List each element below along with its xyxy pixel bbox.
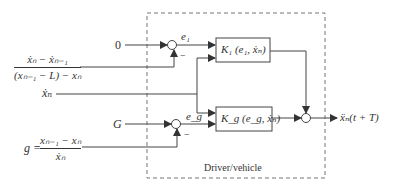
sum-junction-2 xyxy=(172,120,181,129)
fraction2-feedback-line xyxy=(82,129,177,147)
fraction1-numerator: ẋₙ − ẋₙ₋₁ xyxy=(27,53,68,66)
sum-junction-1 xyxy=(168,41,177,50)
fraction2-label: xₙ₋₁ − xₙ ẋₙ xyxy=(40,134,81,162)
fraction1-bar xyxy=(14,67,81,68)
e1-label: e₁ xyxy=(181,31,190,42)
minus-sign-2: − xyxy=(184,130,190,140)
speed-input-label: ẋₙ xyxy=(42,87,52,99)
fraction2-numerator: xₙ₋₁ − xₙ xyxy=(40,134,81,147)
sum-junction-output xyxy=(302,114,311,123)
zero-input-label: 0 xyxy=(115,39,121,51)
fraction2-bar xyxy=(40,148,81,149)
boundary-label: Driver/vehicle xyxy=(204,163,262,173)
g-input-label: G xyxy=(113,118,122,130)
fraction2-denominator: ẋₙ xyxy=(56,150,65,163)
fraction1-feedback-line xyxy=(80,50,174,67)
k1-block-label: K₁ (e₁, ẋₙ) xyxy=(221,44,266,55)
fraction1-denominator: (xₙ₋₁ − L) − xₙ xyxy=(14,69,81,82)
g-equals-label: g = xyxy=(24,142,41,154)
k1-output-line xyxy=(270,51,306,113)
eg-label: e_g xyxy=(186,111,202,122)
speed-to-k1-line xyxy=(197,58,215,94)
kg-block-label: K_g (e_g, ẋₙ) xyxy=(221,113,280,124)
fraction1-label: ẋₙ − ẋₙ₋₁ (xₙ₋₁ − L) − xₙ xyxy=(14,53,81,81)
minus-sign-1: − xyxy=(180,51,186,61)
output-label: ẍₙ(t + T) xyxy=(340,112,379,123)
